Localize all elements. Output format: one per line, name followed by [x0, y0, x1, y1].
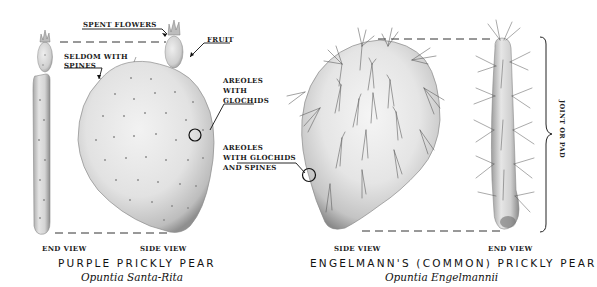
- callout-areoles-line1: AREOLES: [223, 76, 263, 86]
- callout-seldom-line2: SPINES: [64, 61, 96, 71]
- callout-areoles-spines-line2: WITH GLOCHIDS: [223, 153, 296, 163]
- callout-spent-flowers: SPENT FLOWERS: [83, 20, 157, 30]
- callout-areoles-spines-line1: AREOLES: [223, 143, 263, 153]
- right-end-view-label: END VIEW: [488, 244, 533, 253]
- left-side-view-label: SIDE VIEW: [140, 244, 187, 253]
- callout-fruit: FRUIT: [207, 35, 234, 45]
- engelmann-prickly-pear-end-view: [474, 20, 534, 229]
- purple-prickly-pear-end-view: [33, 30, 53, 234]
- left-end-view-label: END VIEW: [42, 244, 87, 253]
- engelmann-prickly-pear-side-view: [287, 28, 444, 229]
- right-side-view-label: SIDE VIEW: [334, 244, 381, 253]
- left-common-name: PURPLE PRICKLY PEAR: [58, 257, 216, 269]
- callout-areoles-line3: GLOCHIDS: [223, 96, 269, 106]
- callout-areoles-line2: WITH: [223, 86, 247, 96]
- joint-or-pad-label: JOINT OR PAD: [558, 100, 566, 158]
- left-scientific-name: Opuntia Santa-Rita: [81, 271, 183, 283]
- right-scientific-name: Opuntia Engelmannii: [385, 271, 498, 283]
- joint-or-pad-brace: [540, 37, 552, 232]
- right-common-name: ENGELMANN'S (COMMON) PRICKLY PEAR: [310, 257, 597, 269]
- callout-areoles-spines-line3: AND SPINES: [223, 163, 277, 173]
